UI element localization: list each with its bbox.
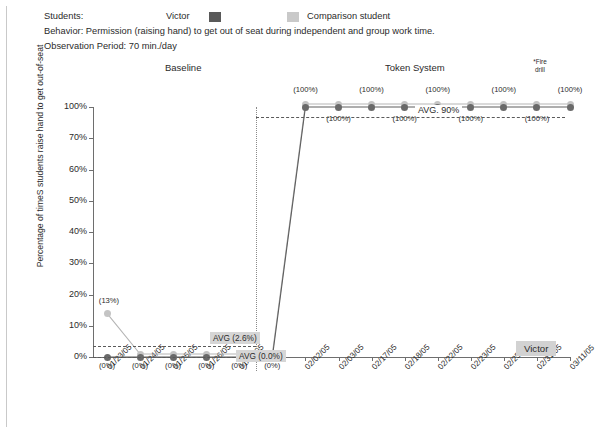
victor-point-label: (100%) (293, 85, 317, 94)
avg-baseline-victor-label: AVG (0.0%) (236, 350, 286, 362)
victor-point-label: (100%) (525, 114, 549, 123)
victor-data-point (500, 104, 507, 111)
victor-point-label: (0%) (132, 361, 148, 370)
average-reference-line (93, 357, 260, 358)
victor-point-label: (100%) (392, 114, 416, 123)
victor-point-label: (0%) (198, 361, 214, 370)
victor-point-label: (0%) (231, 361, 247, 370)
average-reference-line (256, 117, 565, 118)
victor-point-label: (0%) (165, 361, 181, 370)
comparison-series-line (107, 104, 570, 354)
avg-token-label: AVG. 90% (415, 105, 462, 115)
comparison-point-label: (13%) (99, 296, 119, 305)
victor-point-label: (100%) (492, 85, 516, 94)
victor-point-label: (100%) (558, 85, 582, 94)
victor-point-label: (100%) (326, 114, 350, 123)
victor-data-point (567, 104, 574, 111)
comparison-data-point (104, 310, 111, 317)
victor-data-point (302, 104, 309, 111)
avg-baseline-comparison-label: AVG (2.6%) (210, 332, 260, 344)
victor-data-point (467, 104, 474, 111)
victor-data-point (533, 104, 540, 111)
victor-point-label: (0%) (99, 361, 115, 370)
victor-data-point (335, 104, 342, 111)
victor-phase-box: Victor (516, 341, 556, 356)
victor-data-point (368, 104, 375, 111)
victor-data-point (401, 104, 408, 111)
victor-point-label: (100%) (425, 85, 449, 94)
victor-point-label: (0%) (264, 361, 280, 370)
victor-series-line (107, 107, 570, 357)
victor-point-label: (100%) (359, 85, 383, 94)
average-reference-line (93, 346, 256, 347)
